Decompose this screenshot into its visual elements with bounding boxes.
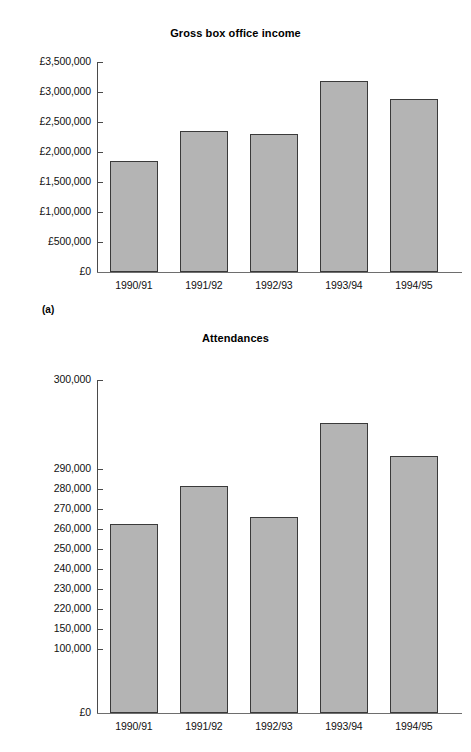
x-axis-category-label: 1993/94 — [304, 279, 384, 291]
bar-1991-92 — [180, 131, 228, 272]
y-axis-tick — [98, 122, 103, 123]
bar-1990-91 — [110, 161, 158, 272]
y-axis-tick-label: 240,000 — [0, 562, 91, 574]
chart-gross-box-office-income: Gross box office income £0£500,000£1,000… — [0, 0, 471, 300]
x-axis-category-label: 1991/92 — [164, 720, 244, 732]
x-axis-category-label: 1991/92 — [164, 279, 244, 291]
x-axis-category-label: 1992/93 — [234, 279, 314, 291]
y-axis-tick — [98, 242, 103, 243]
bar-1994-95 — [390, 99, 438, 272]
y-axis-tick — [98, 182, 103, 183]
bar-1990-91 — [110, 524, 158, 713]
y-axis-tick-label: £3,500,000 — [0, 55, 91, 67]
bar-1994-95 — [390, 456, 438, 713]
y-axis-tick-label: 100,000 — [0, 642, 91, 654]
y-axis-tick-label: 220,000 — [0, 602, 91, 614]
y-axis-tick — [98, 649, 103, 650]
x-axis-line — [97, 272, 462, 273]
chart-attendances: Attendances £0100,000150,000220,000230,0… — [0, 330, 471, 752]
x-axis-category-label: 1992/93 — [234, 720, 314, 732]
y-axis-tick-label: 300,000 — [0, 373, 91, 385]
y-axis-tick-label: £0 — [0, 706, 91, 718]
y-axis-tick — [98, 609, 103, 610]
y-axis-tick-label: £0 — [0, 265, 91, 277]
chart-title-gross-box-office-income: Gross box office income — [0, 27, 471, 39]
y-axis-tick-label: 260,000 — [0, 522, 91, 534]
bar-1993-94 — [320, 81, 368, 272]
bar-1993-94 — [320, 423, 368, 713]
y-axis-tick — [98, 489, 103, 490]
y-axis-tick-label: £2,000,000 — [0, 145, 91, 157]
y-axis-tick-label: 150,000 — [0, 622, 91, 634]
y-axis-tick-label: £1,000,000 — [0, 205, 91, 217]
chart-title-attendances: Attendances — [0, 332, 471, 344]
bar-1992-93 — [250, 134, 298, 272]
y-axis-tick — [98, 529, 103, 530]
y-axis-tick-label: £3,000,000 — [0, 85, 91, 97]
y-axis-tick — [98, 549, 103, 550]
y-axis-tick-label: £1,500,000 — [0, 175, 91, 187]
x-axis-category-label: 1994/95 — [374, 720, 454, 732]
y-axis-tick — [98, 469, 103, 470]
y-axis-tick-label: 290,000 — [0, 462, 91, 474]
y-axis-tick — [98, 152, 103, 153]
panel-label-a: (a) — [42, 304, 54, 315]
y-axis-tick — [98, 569, 103, 570]
y-axis-tick-label: 270,000 — [0, 502, 91, 514]
y-axis-tick — [98, 589, 103, 590]
y-axis-tick — [98, 629, 103, 630]
y-axis-tick-label: 280,000 — [0, 482, 91, 494]
x-axis-category-label: 1993/94 — [304, 720, 384, 732]
y-axis-tick — [98, 212, 103, 213]
y-axis-tick-label: £500,000 — [0, 235, 91, 247]
y-axis-tick — [98, 380, 103, 381]
y-axis-line — [97, 62, 98, 272]
bar-1991-92 — [180, 486, 228, 713]
y-axis-tick-label: 230,000 — [0, 582, 91, 594]
x-axis-category-label: 1990/91 — [94, 279, 174, 291]
x-axis-category-label: 1990/91 — [94, 720, 174, 732]
y-axis-tick — [98, 62, 103, 63]
y-axis-tick — [98, 509, 103, 510]
y-axis-line — [97, 380, 98, 713]
y-axis-tick-label: £2,500,000 — [0, 115, 91, 127]
x-axis-category-label: 1994/95 — [374, 279, 454, 291]
y-axis-tick — [98, 92, 103, 93]
y-axis-tick-label: 250,000 — [0, 542, 91, 554]
x-axis-line — [97, 713, 462, 714]
bar-1992-93 — [250, 517, 298, 713]
